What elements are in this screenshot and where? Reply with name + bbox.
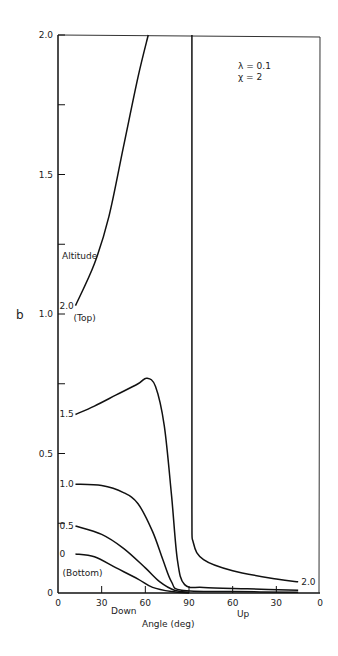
y-axis-ticks: 00.51.01.52.0 — [39, 30, 65, 598]
annotation-lambda: λ = 0.1 — [238, 61, 271, 71]
data-curves — [75, 35, 298, 593]
series-label: 1.0 — [59, 479, 74, 489]
axes — [58, 35, 320, 593]
series-label: 2.0 — [301, 577, 316, 587]
series-label: 0 — [59, 549, 65, 559]
x-tick-label: 0 — [317, 598, 323, 608]
y-tick-label: 1.5 — [39, 170, 53, 180]
y-tick-label: 2.0 — [39, 30, 54, 40]
series-label: 0.5 — [59, 521, 73, 531]
x-sublabel-down: Down — [111, 606, 137, 616]
series-curve — [192, 35, 298, 582]
x-tick-label: 30 — [96, 598, 108, 608]
series-sublabel: (Top) — [73, 313, 95, 323]
x-tick-label: 60 — [140, 598, 152, 608]
chart-canvas: 00.51.01.52.0 030609060300 2.0(Top)2.01.… — [0, 0, 338, 656]
y-tick-label: 0.5 — [39, 449, 53, 459]
x-tick-label: 0 — [55, 598, 61, 608]
y-axis-label: b — [16, 308, 24, 322]
x-tick-label: 60 — [227, 598, 239, 608]
series-curve — [75, 378, 298, 590]
y-tick-label: 1.0 — [39, 309, 54, 319]
x-tick-label: 30 — [271, 598, 283, 608]
x-sublabel-up: Up — [237, 609, 250, 619]
legend-title-altitude: Altitude — [62, 251, 98, 261]
curve-labels: 2.0(Top)2.01.51.00.50(Bottom) — [59, 301, 315, 587]
y-tick-label: 0 — [47, 588, 53, 598]
annotation-chi: χ = 2 — [238, 72, 262, 82]
series-curve — [75, 35, 148, 306]
x-axis-label: Angle (deg) — [142, 619, 194, 629]
series-label: 2.0 — [59, 301, 74, 311]
x-tick-label: 90 — [183, 598, 195, 608]
series-sublabel: (Bottom) — [62, 568, 102, 578]
series-label: 1.5 — [59, 409, 73, 419]
